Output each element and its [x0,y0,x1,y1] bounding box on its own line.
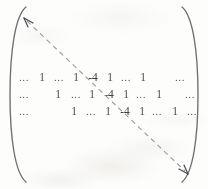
matrix-figure: ... 1 ... 1 -4 1 ... 1 ... ... 1 ... 1 -… [0,0,208,189]
matrix-cell: 1 [73,70,79,85]
matrix-cell: ... [175,70,185,85]
matrix-cell: ... [19,104,29,119]
matrix-cell: ... [19,87,29,102]
matrix-cell: ... [187,104,197,119]
matrix-cell: 1 [105,104,111,119]
matrix-diagonal-cell: -4 [120,104,130,119]
matrix-body: ... 1 ... 1 -4 1 ... 1 ... ... 1 ... 1 -… [0,0,208,189]
matrix-cell: ... [121,70,131,85]
matrix-diagonal-cell: -4 [88,70,98,85]
matrix-diagonal-cell: -4 [104,87,114,102]
matrix-cell: ... [152,104,162,119]
matrix-row: ... 1 ... 1 -4 1 ... 1 ... [0,87,208,102]
matrix-cell: 1 [140,70,146,85]
matrix-cell: 1 [139,104,145,119]
matrix-cell: 1 [71,104,77,119]
matrix-cell: 1 [107,70,113,85]
matrix-row: ... 1 ... 1 -4 1 ... 1 ... [0,70,208,85]
matrix-cell: 1 [55,87,61,102]
matrix-cell: 1 [172,104,178,119]
matrix-cell: ... [185,87,195,102]
matrix-cell: ... [86,104,96,119]
matrix-cell: ... [19,70,29,85]
matrix-cell: 1 [123,87,129,102]
matrix-cell: 1 [39,70,45,85]
matrix-cell: ... [54,70,64,85]
matrix-cell: ... [136,87,146,102]
matrix-cell: 1 [156,87,162,102]
matrix-cell: ... [71,87,81,102]
matrix-row: ... 1 ... 1 -4 1 ... 1 ... [0,104,208,119]
matrix-cell: 1 [89,87,95,102]
